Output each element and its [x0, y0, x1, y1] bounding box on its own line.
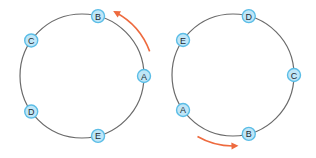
rotation-arrow	[113, 11, 150, 51]
node-label: E	[95, 131, 101, 141]
node-label: B	[95, 12, 101, 22]
ring-right: DECAB	[172, 10, 301, 150]
ring-left: BCADE	[20, 10, 151, 143]
ring-node-e: E	[177, 34, 190, 47]
ring-node-c: C	[25, 34, 38, 47]
ring-node-a: A	[138, 70, 151, 83]
node-label: C	[28, 36, 35, 46]
ring-node-b: B	[92, 10, 105, 23]
ring-node-b: B	[242, 127, 255, 140]
ring-node-c: C	[288, 69, 301, 82]
hash-ring-diagram: BCADE DECAB	[0, 0, 316, 158]
arrowhead-icon	[231, 143, 238, 150]
ring-node-d: D	[25, 105, 38, 118]
rotation-arrow-shaft	[198, 136, 236, 146]
ring-node-a: A	[177, 103, 190, 116]
node-label: B	[246, 129, 252, 139]
rotation-arrow	[198, 136, 239, 149]
node-label: E	[180, 36, 186, 46]
ring-circle	[20, 14, 144, 138]
ring-node-d: D	[242, 10, 255, 23]
node-label: A	[141, 72, 147, 82]
node-label: D	[246, 12, 253, 22]
ring-circle	[172, 14, 294, 136]
ring-node-e: E	[92, 129, 105, 142]
node-label: C	[291, 71, 298, 81]
rotation-arrow-shaft	[116, 12, 150, 51]
node-label: A	[180, 105, 186, 115]
node-label: D	[28, 107, 35, 117]
